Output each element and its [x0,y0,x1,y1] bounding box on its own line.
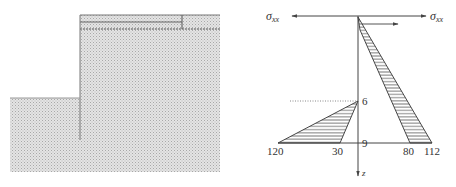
soil-section [10,15,220,172]
left-stress-area [278,101,358,143]
right-stress-area [358,17,432,143]
value-label-112: 112 [424,145,440,157]
value-label-80: 80 [403,145,415,157]
soil-body [10,15,220,172]
figure-canvas: σxx σxx 6 9 120 30 80 112 z [0,0,456,187]
stress-diagram: σxx σxx 6 9 120 30 80 112 z [266,9,443,178]
sigma-right-label: σxx [430,9,443,24]
depth-mark-9: 9 [362,137,368,149]
sigma-left-label: σxx [266,9,279,24]
z-axis-label: z [361,168,366,178]
value-label-120: 120 [267,145,284,157]
value-label-30: 30 [332,145,344,157]
depth-mark-6: 6 [362,95,368,107]
